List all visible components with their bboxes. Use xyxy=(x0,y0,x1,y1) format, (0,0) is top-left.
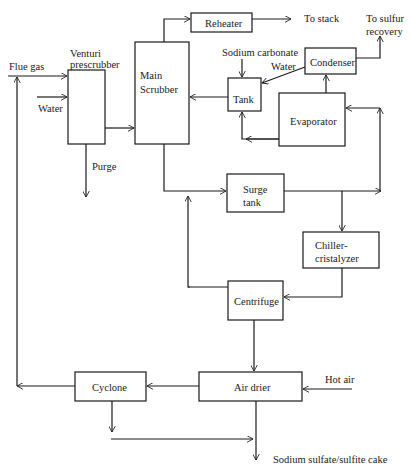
sodium-carbonate-label: Sodium carbonate xyxy=(222,47,298,58)
centrifuge-label: Centrifuge xyxy=(234,296,279,307)
to-sulfur-label-2: recovery xyxy=(366,26,403,37)
evaporator-label: Evaporator xyxy=(290,116,337,127)
air-drier-label: Air drier xyxy=(234,382,271,393)
condenser-label: Condenser xyxy=(310,57,355,68)
surge-tank-label-1: Surge xyxy=(243,184,268,195)
water-condensate-label: Water xyxy=(271,61,296,72)
hot-air-label: Hot air xyxy=(325,374,355,385)
reheater-label: Reheater xyxy=(205,18,243,29)
purge-label: Purge xyxy=(92,161,117,172)
air-drier-unit: Air drier xyxy=(199,372,302,401)
chiller-label-1: Chiller- xyxy=(315,240,348,251)
surge-tank-label-2: tank xyxy=(243,197,262,208)
chiller-cristalyzer-unit: Chiller- cristalyzer xyxy=(303,232,379,268)
to-stack-label: To stack xyxy=(304,13,340,24)
reheater-unit: Reheater xyxy=(191,13,252,32)
water-in-label: Water xyxy=(38,103,63,114)
cyclone-unit: Cyclone xyxy=(75,372,146,401)
venturi-label-1: Venturi xyxy=(70,48,101,59)
product-label: Sodium sulfate/sulfite cake xyxy=(273,454,388,465)
venturi-prescrubber-unit: Venturi prescrubber xyxy=(68,48,120,144)
centrifuge-unit: Centrifuge xyxy=(228,281,283,320)
process-flow-diagram: Venturi prescrubber Main Scrubber Reheat… xyxy=(0,0,411,472)
surge-tank-unit: Surge tank xyxy=(227,174,284,212)
main-scrubber-label-2: Scrubber xyxy=(140,84,178,95)
tank-label: Tank xyxy=(233,94,255,105)
cyclone-label: Cyclone xyxy=(92,382,127,393)
flue-gas-label: Flue gas xyxy=(9,61,44,72)
main-scrubber-unit: Main Scrubber xyxy=(135,42,189,144)
to-sulfur-label-1: To sulfur xyxy=(366,13,405,24)
main-scrubber-label-1: Main xyxy=(140,70,163,81)
venturi-label-2: prescrubber xyxy=(70,59,120,70)
tank-unit: Tank xyxy=(228,78,261,111)
chiller-label-2: cristalyzer xyxy=(315,253,359,264)
condenser-unit: Condenser xyxy=(305,48,356,74)
evaporator-unit: Evaporator xyxy=(279,93,345,146)
